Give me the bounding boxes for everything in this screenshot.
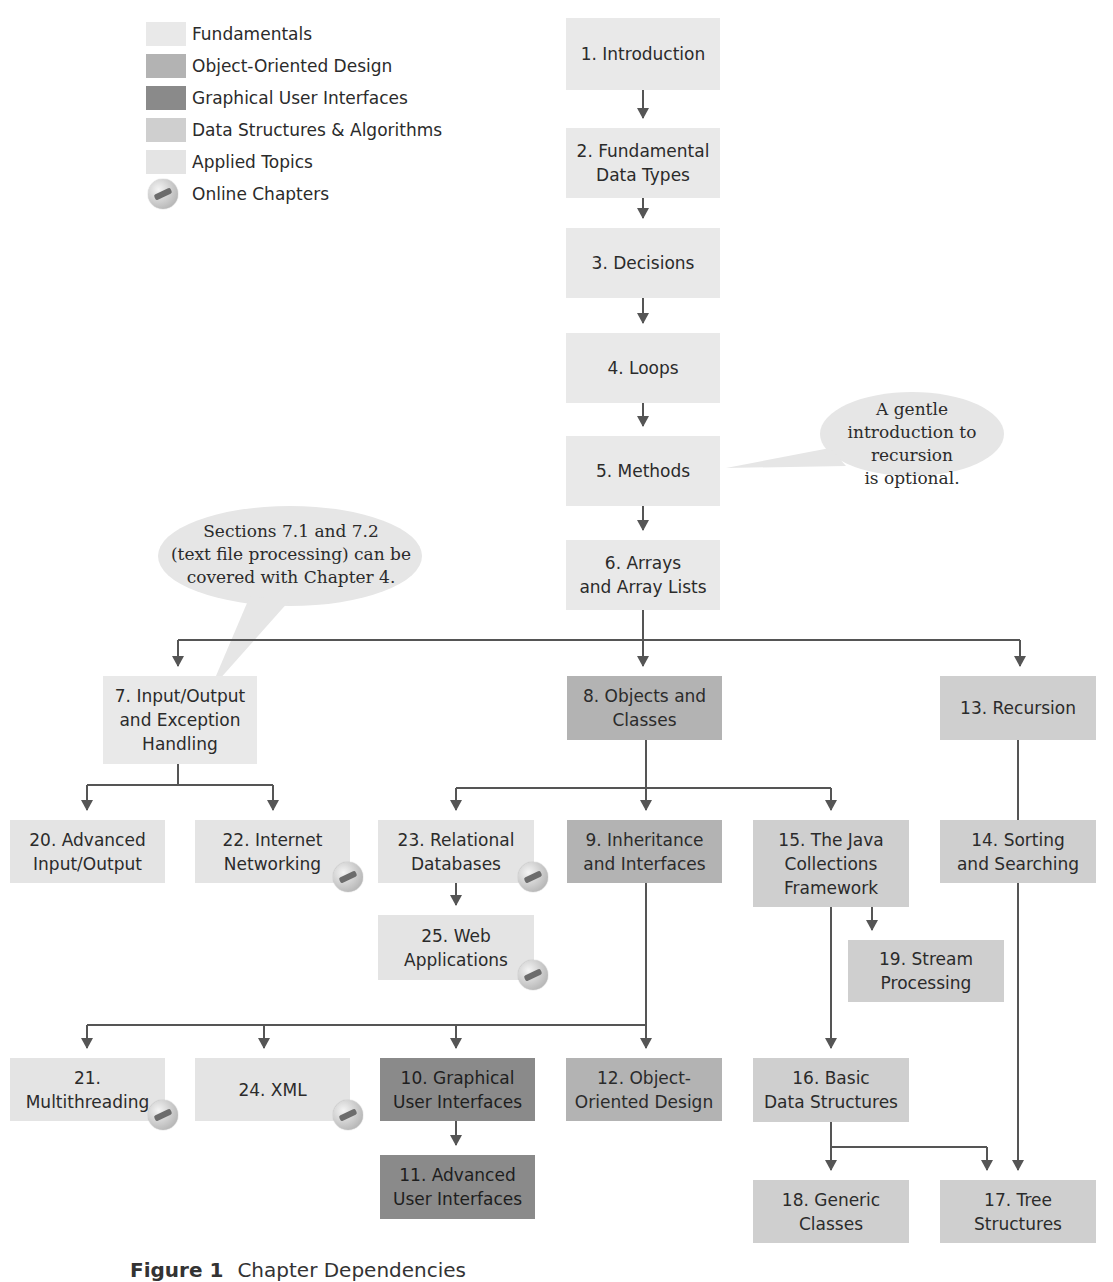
swatch-fundamentals — [146, 22, 186, 46]
chapter-8: 8. Objects and Classes — [567, 676, 722, 740]
legend-item-ood: Object-Oriented Design — [146, 54, 392, 78]
chapter-17: 17. Tree Structures — [940, 1180, 1096, 1243]
legend-item-dsa: Data Structures & Algorithms — [146, 118, 442, 142]
legend-item-online: Online Chapters — [146, 182, 329, 206]
swatch-gui — [146, 86, 186, 110]
chapter-1: 1. Introduction — [566, 18, 720, 90]
chapter-22: 22. Internet Networking — [195, 820, 350, 883]
cd-disc-icon — [518, 960, 548, 990]
cd-disc-icon — [148, 179, 178, 209]
chapter-23: 23. Relational Databases — [378, 820, 534, 883]
legend-label: Applied Topics — [192, 152, 313, 172]
cd-disc-icon — [333, 1100, 363, 1130]
chapter-18: 18. Generic Classes — [753, 1180, 909, 1243]
chapter-5: 5. Methods — [566, 436, 720, 506]
legend-item-applied: Applied Topics — [146, 150, 313, 174]
chapter-15: 15. The Java Collections Framework — [753, 820, 909, 907]
legend-label: Data Structures & Algorithms — [192, 120, 442, 140]
figure-caption: Figure 1Chapter Dependencies — [130, 1258, 466, 1282]
chapter-13: 13. Recursion — [940, 676, 1096, 740]
legend-label: Online Chapters — [192, 184, 329, 204]
chapter-9: 9. Inheritance and Interfaces — [567, 820, 722, 883]
note-recursion: A gentle introduction to recursion is op… — [820, 398, 1004, 490]
chapter-4: 4. Loops — [566, 333, 720, 403]
chapter-24: 24. XML — [195, 1058, 350, 1121]
chapter-6: 6. Arrays and Array Lists — [566, 540, 720, 610]
chapter-3: 3. Decisions — [566, 228, 720, 298]
caption-label: Figure 1 — [130, 1258, 223, 1282]
legend-label: Fundamentals — [192, 24, 312, 44]
legend-label: Graphical User Interfaces — [192, 88, 408, 108]
legend-item-fundamentals: Fundamentals — [146, 22, 312, 46]
chapter-7: 7. Input/Output and Exception Handling — [103, 676, 257, 764]
swatch-dsa — [146, 118, 186, 142]
note-text-files: Sections 7.1 and 7.2 (text file processi… — [160, 520, 422, 589]
chapter-11: 11. Advanced User Interfaces — [380, 1155, 535, 1219]
chapter-20: 20. Advanced Input/Output — [10, 820, 165, 883]
chapter-16: 16. Basic Data Structures — [753, 1058, 909, 1122]
chapter-10: 10. Graphical User Interfaces — [380, 1058, 535, 1121]
legend-label: Object-Oriented Design — [192, 56, 392, 76]
caption-text: Chapter Dependencies — [237, 1258, 466, 1282]
chapter-12: 12. Object- Oriented Design — [566, 1058, 722, 1121]
cd-disc-icon — [333, 862, 363, 892]
chapter-21: 21. Multithreading — [10, 1058, 165, 1121]
chapter-14: 14. Sorting and Searching — [940, 820, 1096, 883]
chapter-2: 2. Fundamental Data Types — [566, 128, 720, 198]
swatch-applied — [146, 150, 186, 174]
legend-item-gui: Graphical User Interfaces — [146, 86, 408, 110]
cd-disc-icon — [518, 862, 548, 892]
chapter-25: 25. Web Applications — [378, 915, 534, 980]
cd-disc-icon — [148, 1100, 178, 1130]
swatch-ood — [146, 54, 186, 78]
chapter-19: 19. Stream Processing — [848, 940, 1004, 1002]
